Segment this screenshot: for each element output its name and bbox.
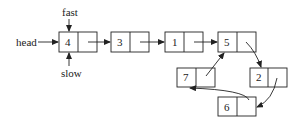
node-value: 5 [224,36,230,48]
node-value: 7 [183,71,189,83]
node-6: 6 [218,97,256,116]
node-value: 1 [172,36,178,48]
node-7: 7 [177,68,215,87]
linked-list-diagram: head fast slow 4 3 1 5 2 6 [0,0,303,124]
head-label: head [16,36,37,48]
node-value: 6 [224,101,230,113]
node-value: 4 [65,36,71,48]
node-value: 3 [117,36,123,48]
node-2: 2 [250,68,287,87]
node-5: 5 [218,32,256,52]
edge-5-2 [246,42,261,67]
fast-label: fast [62,6,78,18]
node-value: 2 [256,71,262,83]
slow-label: slow [61,67,82,79]
edge-6-7 [190,88,249,100]
